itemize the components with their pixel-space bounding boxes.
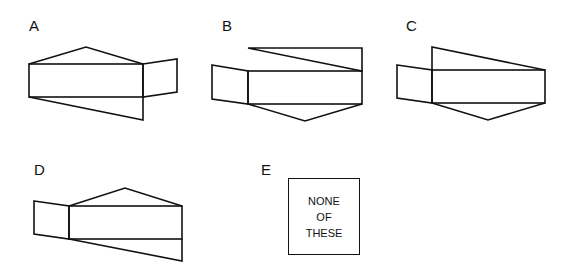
option-e-none-of-these-box[interactable]: NONE OF THESE [288, 178, 360, 255]
option-e-text-line-1: NONE [308, 193, 340, 209]
option-d-figure[interactable] [34, 188, 182, 261]
option-a-figure[interactable] [29, 47, 177, 120]
option-e-text-line-3: THESE [306, 225, 343, 241]
option-b-figure[interactable] [212, 48, 362, 121]
figures-canvas [0, 0, 569, 279]
option-e-text-line-2: OF [316, 209, 331, 225]
option-c-figure[interactable] [397, 47, 545, 120]
